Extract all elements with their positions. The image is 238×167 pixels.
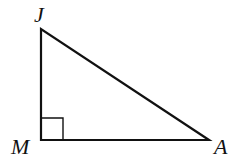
vertex-label-m: M <box>10 134 31 159</box>
vertex-label-j: J <box>34 2 45 27</box>
vertex-label-a: A <box>212 134 228 159</box>
right-angle-marker <box>41 118 63 140</box>
triangle-jma <box>41 29 209 140</box>
triangle-diagram: J M A <box>0 0 238 167</box>
